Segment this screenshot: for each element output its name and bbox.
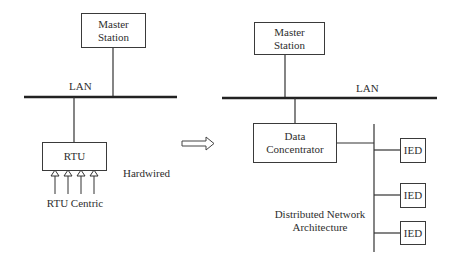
right-master-station-box: Master Station — [254, 22, 325, 55]
rtu-label: RTU — [64, 150, 85, 163]
rtu-centric-caption: RTU Centric — [45, 197, 105, 210]
hardwired-label: Hardwired — [123, 167, 170, 180]
ied-label: IED — [404, 144, 422, 157]
left-lan-label: LAN — [69, 80, 92, 93]
left-master-station-line1: Master — [98, 18, 129, 31]
distributed-network-caption-line2: Architecture — [260, 221, 380, 234]
rtu-box: RTU — [42, 142, 107, 171]
distributed-network-caption: Distributed Network Architecture — [260, 208, 380, 234]
right-lan-label: LAN — [356, 82, 379, 95]
distributed-network-caption-line1: Distributed Network — [260, 208, 380, 221]
rtu-input-arrows — [51, 170, 98, 194]
transition-arrow-icon — [182, 137, 214, 150]
left-master-station-box: Master Station — [81, 13, 146, 48]
ied-label: IED — [404, 227, 422, 240]
diagram-lines — [0, 0, 458, 261]
data-concentrator-box: Data Concentrator — [253, 123, 337, 163]
data-concentrator-line1: Data — [285, 130, 306, 143]
right-master-station-line2: Station — [274, 39, 305, 52]
ied-box-2: IED — [400, 183, 426, 208]
left-master-station-line2: Station — [98, 31, 129, 44]
ied-label: IED — [404, 189, 422, 202]
right-master-station-line1: Master — [274, 26, 305, 39]
ied-box-3: IED — [400, 221, 426, 245]
ied-box-1: IED — [400, 138, 426, 163]
data-concentrator-line2: Concentrator — [266, 143, 323, 156]
